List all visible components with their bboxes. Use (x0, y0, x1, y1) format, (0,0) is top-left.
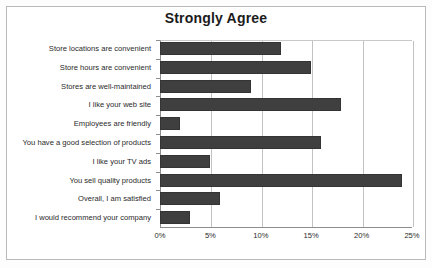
category-tickmark (156, 134, 160, 135)
value-axis-ticks: 0%5%10%15%20%25% (160, 231, 412, 245)
bar-row (160, 209, 412, 228)
bar-series (160, 40, 412, 228)
bar-row (160, 190, 412, 209)
category-label: I like your web site (8, 96, 156, 115)
category-tickmark (156, 78, 160, 79)
category-label: Store hours are convenient (8, 59, 156, 78)
category-label: You sell quality products (8, 172, 156, 191)
x-tick-label: 5% (205, 231, 216, 240)
bar (160, 192, 220, 205)
bar (160, 155, 210, 168)
category-label: Stores are well-maintained (8, 78, 156, 97)
category-label: I would recommend your company (8, 209, 156, 228)
bar-row (160, 96, 412, 115)
chart-container: Strongly Agree Store locations are conve… (0, 0, 432, 268)
bar-row (160, 134, 412, 153)
category-tickmark (156, 190, 160, 191)
x-tick-label: 10% (253, 231, 268, 240)
bar-row (160, 59, 412, 78)
category-label: You have a good selection of products (8, 134, 156, 153)
chart-title: Strongly Agree (0, 10, 432, 26)
x-tick-label: 15% (304, 231, 319, 240)
bar (160, 80, 251, 93)
category-tickmark (156, 115, 160, 116)
category-tickmark (156, 209, 160, 210)
category-tickmark (156, 96, 160, 97)
bar-row (160, 115, 412, 134)
bar (160, 98, 341, 111)
category-label: Store locations are convenient (8, 40, 156, 59)
bar-row (160, 172, 412, 191)
category-tickmark (156, 153, 160, 154)
bar-row (160, 153, 412, 172)
bar (160, 61, 311, 74)
x-tick-label: 25% (404, 231, 419, 240)
category-tickmark (156, 172, 160, 173)
bar-row (160, 40, 412, 59)
category-label: I like your TV ads (8, 153, 156, 172)
category-axis-labels: Store locations are convenientStore hour… (8, 40, 156, 228)
x-tick-label: 20% (354, 231, 369, 240)
bar (160, 174, 402, 187)
category-tickmark (156, 59, 160, 60)
x-tick-label: 0% (155, 231, 166, 240)
category-label: Employees are friendly (8, 115, 156, 134)
category-label: Overall, I am satisfied (8, 190, 156, 209)
bar (160, 211, 190, 224)
category-tickmark (156, 40, 160, 41)
bar-row (160, 78, 412, 97)
gridline (413, 41, 414, 227)
bar (160, 117, 180, 130)
bar (160, 42, 281, 55)
bar (160, 136, 321, 149)
